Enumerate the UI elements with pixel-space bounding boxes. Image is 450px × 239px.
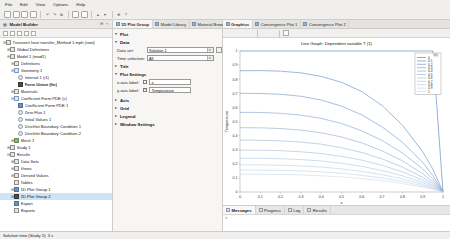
reset-icon[interactable]: ↺ [269, 30, 275, 36]
y-axis-label: Temperature [225, 111, 229, 132]
x-tick-label: 0.9 [420, 195, 425, 199]
series-line-0.4 [240, 128, 443, 192]
y-tick-label: 0.8 [233, 78, 238, 82]
x-tick-label: 0 [239, 195, 241, 199]
x-tick-label: 0.1 [258, 195, 263, 199]
y-tick-label: 0.1 [233, 176, 238, 180]
comsol-window: File Edit View Options Help ↶ ↷ ⧉ ▴ ▾ ⊕ … [0, 0, 450, 239]
legend-label: 1 [428, 90, 430, 94]
plot-svg-container: 00.10.20.30.40.50.60.70.80.9100.10.20.30… [223, 47, 450, 205]
x-tick-label: 0.6 [359, 195, 364, 199]
plot-canvas[interactable]: Line Graph: Dependent variable T (1) 00.… [223, 38, 450, 205]
x-tick-label: 0.7 [380, 195, 385, 199]
line-chart: 00.10.20.30.40.50.60.70.80.9100.10.20.30… [223, 47, 450, 205]
y-tick-label: 0.5 [233, 120, 238, 124]
series-line-1 [240, 174, 443, 192]
y-tick-label: 1 [236, 49, 238, 53]
y-tick-label: 0.4 [233, 134, 238, 138]
series-line-0.9 [240, 170, 443, 192]
series-line-0.7 [240, 158, 443, 192]
y-tick-label: 0.2 [233, 162, 238, 166]
x-tick-label: 0.5 [339, 195, 344, 199]
y-tick-label: 0.3 [233, 148, 238, 152]
x-axis-label: x [341, 201, 343, 205]
x-tick-label: 0.8 [400, 195, 405, 199]
workspace: ▦ Model Builder ⊟ × ⊟Transient heat tran… [0, 20, 450, 231]
series-line-0 [240, 51, 443, 192]
series-line-0.1 [240, 71, 443, 192]
graphics-panel: GraphicsConvergence Plot 1Convergence Pl… [223, 20, 450, 231]
graphics-toolbar: ⊕ ⊖ ⤢ ▣ ◫ ↺ [223, 29, 450, 38]
y-tick-label: 0.7 [233, 92, 238, 96]
legend-title: t(s) [433, 53, 438, 57]
series-line-0.5 [240, 140, 443, 192]
x-tick-label: 0.4 [319, 195, 324, 199]
x-tick-label: 0.2 [278, 195, 283, 199]
y-tick-label: 0 [236, 190, 238, 194]
y-tick-label: 0.9 [233, 63, 238, 67]
x-tick-label: 0.3 [298, 195, 303, 199]
x-tick-label: 1 [442, 195, 444, 199]
plot-title: Line Graph: Dependent variable T (1) [223, 38, 450, 46]
series-line-0.2 [240, 93, 443, 192]
series-line-0.6 [240, 150, 443, 192]
y-tick-label: 0.6 [233, 106, 238, 110]
series-line-0.8 [240, 165, 443, 192]
